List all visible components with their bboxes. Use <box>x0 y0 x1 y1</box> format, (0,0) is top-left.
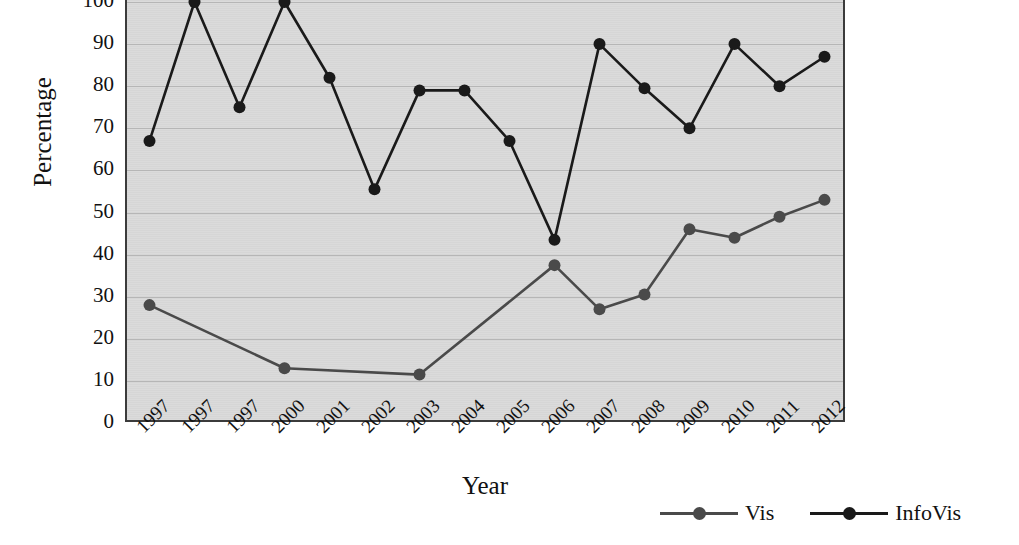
data-point-vis <box>774 211 786 223</box>
data-point-infovis <box>324 72 336 84</box>
x-axis-title: Year <box>125 472 845 500</box>
series-line-vis <box>150 200 825 375</box>
data-point-infovis <box>144 135 156 147</box>
y-axis-tick-label: 30 <box>93 284 114 305</box>
legend-label: Vis <box>745 500 774 526</box>
plot-area <box>125 0 845 422</box>
legend-marker-icon <box>843 507 856 520</box>
data-point-infovis <box>639 82 651 94</box>
data-point-vis <box>819 194 831 206</box>
y-axis-tick-label: 20 <box>93 326 114 347</box>
data-point-infovis <box>459 84 471 96</box>
y-axis-tick-label: 60 <box>93 158 114 179</box>
line-chart-figure: 0102030405060708090100 Percentage 199719… <box>0 0 1019 545</box>
data-point-infovis <box>594 38 606 50</box>
legend-item-vis[interactable]: Vis <box>660 500 774 526</box>
legend-label: InfoVis <box>895 500 961 526</box>
legend: VisInfoVis <box>660 500 961 526</box>
legend-symbol <box>810 505 888 521</box>
y-axis-tick-label: 90 <box>93 32 114 53</box>
data-point-vis <box>639 289 651 301</box>
y-axis: 0102030405060708090100 <box>60 0 122 422</box>
legend-marker-icon <box>693 507 706 520</box>
data-point-vis <box>414 369 426 381</box>
data-point-infovis <box>774 80 786 92</box>
data-point-infovis <box>819 51 831 63</box>
data-point-infovis <box>504 135 516 147</box>
series-line-infovis <box>150 2 825 240</box>
data-point-infovis <box>549 234 561 246</box>
data-point-infovis <box>684 122 696 134</box>
y-axis-tick-label: 40 <box>93 242 114 263</box>
y-axis-title: Percentage <box>29 17 57 247</box>
data-point-infovis <box>414 84 426 96</box>
x-axis: 1997199719972000200120022003200420052006… <box>125 422 845 478</box>
y-axis-tick-label: 70 <box>93 116 114 137</box>
legend-symbol <box>660 505 738 521</box>
y-axis-tick-label: 0 <box>104 411 115 432</box>
y-axis-tick-label: 80 <box>93 74 114 95</box>
data-point-vis <box>279 362 291 374</box>
data-point-infovis <box>234 101 246 113</box>
y-axis-tick-label: 50 <box>93 200 114 221</box>
data-point-infovis <box>189 0 201 8</box>
data-point-vis <box>729 232 741 244</box>
data-point-vis <box>594 303 606 315</box>
y-axis-tick-label: 100 <box>83 0 115 11</box>
legend-item-infovis[interactable]: InfoVis <box>810 500 961 526</box>
series-layer <box>127 0 845 422</box>
data-point-infovis <box>729 38 741 50</box>
data-point-vis <box>549 259 561 271</box>
y-axis-tick-label: 10 <box>93 368 114 389</box>
data-point-vis <box>144 299 156 311</box>
data-point-infovis <box>369 183 381 195</box>
data-point-vis <box>684 223 696 235</box>
